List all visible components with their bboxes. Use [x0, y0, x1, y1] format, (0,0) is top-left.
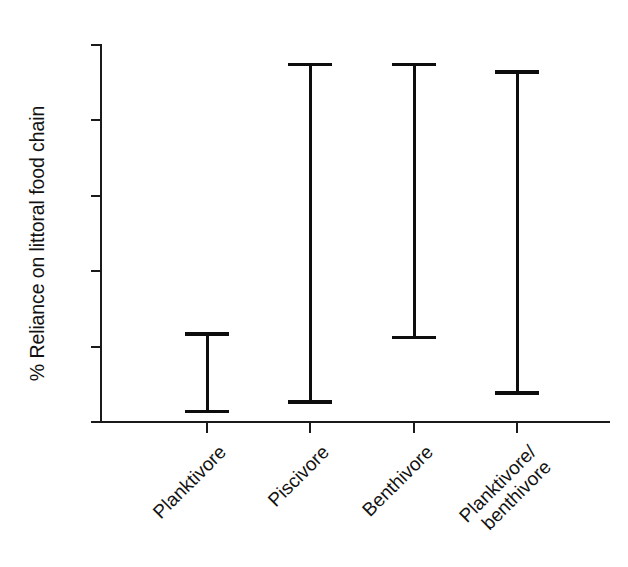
- x-axis-label-line-1: Piscivore: [264, 441, 333, 510]
- y-tick-80: [91, 119, 100, 121]
- range-stem: [309, 63, 312, 404]
- x-axis-line: [100, 421, 610, 423]
- y-axis-title: % Reliance on littoral food chain: [26, 44, 49, 444]
- plot-area: 100 80 60 40 20 0: [100, 44, 610, 422]
- x-axis-label-line-1: Benthivore: [358, 441, 437, 520]
- x-axis-label-benthivore: Benthivore: [335, 442, 438, 545]
- range-stem: [516, 70, 519, 394]
- x-axis-label-planktivore: Planktivore: [128, 442, 231, 545]
- range-cap-min: [185, 410, 229, 414]
- y-tick-20: [91, 346, 100, 348]
- range-cap-min: [392, 336, 436, 340]
- range-cap-min: [288, 400, 332, 404]
- chart-figure: % Reliance on littoral food chain 100 80…: [0, 0, 628, 567]
- range-cap-min: [495, 391, 539, 395]
- x-tick-planktivore: [206, 423, 208, 433]
- y-tick-100: [91, 44, 100, 46]
- y-tick-40: [91, 270, 100, 272]
- x-tick-planktivore-benthivore: [516, 423, 518, 433]
- x-tick-benthivore: [413, 423, 415, 433]
- y-tick-0: [91, 421, 100, 423]
- x-axis-label-line-1: Planktivore: [149, 441, 230, 522]
- x-axis-label-piscivore: Piscivore: [231, 442, 334, 545]
- range-stem: [206, 332, 209, 413]
- x-tick-piscivore: [309, 423, 311, 433]
- y-axis-line: [100, 44, 102, 423]
- range-stem: [413, 63, 416, 339]
- x-axis-label-planktivore-benthivore: Planktivore/ benthivore: [438, 442, 555, 559]
- y-tick-60: [91, 195, 100, 197]
